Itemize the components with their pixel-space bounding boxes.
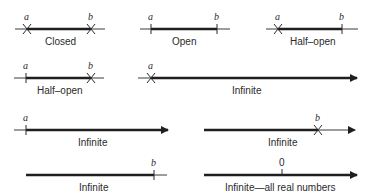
interval-label: Infinite: [232, 85, 262, 96]
interval-label: Closed: [45, 36, 76, 47]
interval-label: Infinite—all real numbers: [225, 182, 336, 193]
label-b: b: [315, 112, 320, 123]
label-a: a: [148, 11, 153, 22]
interval-all-reals: 0 Infinite—all real numbers: [204, 157, 357, 193]
interval-label: Infinite: [78, 137, 108, 148]
label-b: b: [88, 60, 93, 71]
interval-half-open-2: a b Half–open: [14, 60, 104, 96]
label-b: b: [339, 11, 344, 22]
label-b: b: [214, 11, 219, 22]
interval-infinite-1: a Infinite: [138, 60, 357, 96]
label-a: a: [275, 11, 280, 22]
interval-infinite-4: b Infinite: [26, 157, 167, 193]
label-b: b: [88, 11, 93, 22]
interval-infinite-2: a Infinite: [14, 112, 168, 148]
interval-half-open-1: a b Half–open: [266, 11, 358, 47]
label-a: a: [23, 60, 28, 71]
label-b: b: [151, 157, 156, 168]
interval-label: Open: [172, 36, 196, 47]
label-a: a: [148, 60, 153, 71]
label-a: a: [24, 11, 29, 22]
label-zero: 0: [279, 157, 285, 168]
interval-label: Half–open: [37, 85, 83, 96]
interval-open: a b Open: [140, 11, 230, 47]
interval-label: Infinite: [268, 137, 298, 148]
label-a: a: [23, 112, 28, 123]
interval-infinite-3: b Infinite: [204, 112, 355, 148]
interval-label: Infinite: [79, 182, 109, 193]
interval-diagram: a b Closed a b Open a b Half–open a b Ha…: [0, 0, 366, 196]
interval-closed: a b Closed: [15, 11, 105, 47]
interval-label: Half–open: [290, 36, 336, 47]
